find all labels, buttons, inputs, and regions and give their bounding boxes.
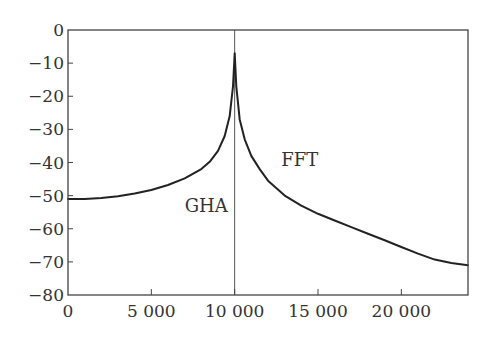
y-tick-label: −20 [28, 86, 64, 106]
annotation-gha: GHA [185, 195, 229, 216]
annotations: GHAFFT [185, 149, 319, 216]
x-tick-label: 0 [63, 301, 74, 321]
chart-canvas: 0−10−20−30−40−50−60−70−80 05 00010 00015… [0, 0, 488, 340]
y-tick-label: −40 [28, 153, 64, 173]
y-tick-label: −50 [28, 186, 64, 206]
spectrum-chart: 0−10−20−30−40−50−60−70−80 05 00010 00015… [0, 0, 488, 340]
y-axis: 0−10−20−30−40−50−60−70−80 [28, 20, 73, 305]
y-tick-label: −60 [28, 219, 64, 239]
y-tick-label: −10 [28, 53, 64, 73]
plot-frame [68, 30, 468, 295]
spectrum-curve [68, 53, 468, 265]
y-tick-label: −30 [28, 119, 64, 139]
y-tick-label: −70 [28, 252, 64, 272]
x-tick-label: 20 000 [372, 301, 431, 321]
x-tick-label: 15 000 [288, 301, 347, 321]
y-tick-label: 0 [53, 20, 64, 40]
annotation-fft: FFT [281, 149, 318, 170]
x-tick-label: 5 000 [127, 301, 176, 321]
x-tick-label: 10 000 [205, 301, 264, 321]
y-tick-label: −80 [28, 285, 64, 305]
x-axis: 05 00010 00015 00020 000 [63, 289, 431, 321]
